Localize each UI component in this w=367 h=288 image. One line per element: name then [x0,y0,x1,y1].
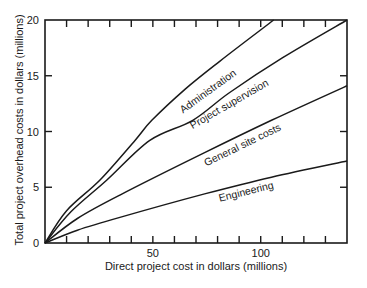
x-axis-title: Direct project cost in dollars (millions… [105,260,287,272]
plot-frame [45,20,347,243]
curve-labels: AdministrationProject supervisionGeneral… [177,66,282,203]
x-tick-label: 100 [252,247,270,259]
y-axis-title: Total project overhead costs in dollars … [13,14,25,245]
curve-label-engineering: Engineering [217,178,274,203]
curves [45,20,347,243]
y-tick-label: 15 [27,70,39,82]
curve-administration [45,20,274,243]
curve-label-general-site-costs: General site costs [202,121,283,169]
x-tick-label: 50 [147,247,159,259]
y-tick-label: 5 [33,181,39,193]
y-tick-label: 20 [27,14,39,26]
y-tick-label: 10 [27,126,39,138]
axis-ticks [45,20,347,243]
y-tick-label: 0 [33,237,39,249]
curve-engineering [45,161,347,243]
overhead-cost-chart: 5010005101520 AdministrationProject supe… [0,0,367,288]
curve-general-site-costs [45,86,347,243]
plot-border [45,20,347,243]
curve-project-supervision [45,20,347,243]
